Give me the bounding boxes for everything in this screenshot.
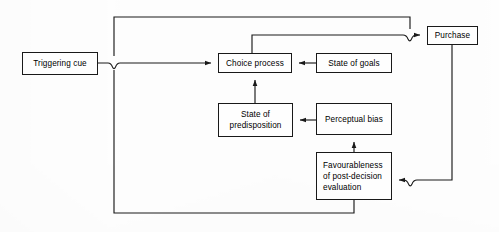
node-state-of-predisposition: State of predisposition [218, 103, 293, 137]
node-favourableness-label: Favourableness of post-decision evaluati… [317, 160, 388, 193]
edge-feedback-loop-outer-upper [114, 17, 410, 56]
node-choice-process: Choice process [218, 53, 292, 73]
node-purchase: Purchase [427, 26, 478, 45]
node-state-of-goals: State of goals [316, 53, 392, 73]
flow-diagram-figure: Triggering cue Choice process State of g… [0, 0, 499, 232]
node-state-of-predisposition-label: State of predisposition [225, 109, 287, 131]
node-favourableness-of-post-decision-evaluation: Favourableness of post-decision evaluati… [316, 152, 392, 200]
node-triggering-cue-label: Triggering cue [28, 58, 91, 69]
edge-triggering-cue-to-choice-process [98, 63, 211, 69]
node-choice-process-label: Choice process [221, 58, 289, 69]
node-perceptual-bias: Perceptual bias [316, 103, 392, 135]
node-perceptual-bias-label: Perceptual bias [320, 114, 388, 125]
edge-choice-process-to-purchase [252, 35, 420, 53]
node-purchase-label: Purchase [430, 30, 475, 41]
node-triggering-cue: Triggering cue [22, 52, 98, 75]
edge-purchase-to-favourableness [399, 45, 452, 186]
node-state-of-goals-label: State of goals [323, 58, 384, 69]
